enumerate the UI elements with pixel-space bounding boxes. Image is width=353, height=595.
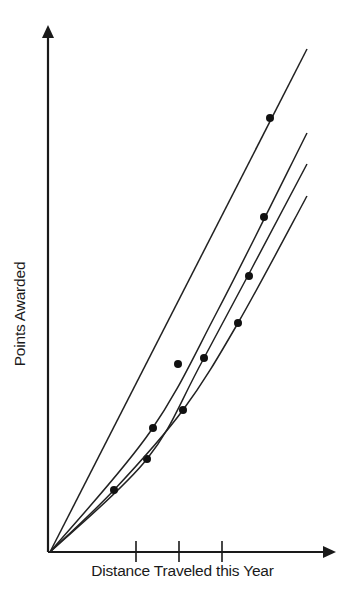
series-lines <box>50 49 307 552</box>
data-point <box>260 213 268 221</box>
y-axis-arrow-icon <box>42 25 54 38</box>
series-line <box>50 49 307 552</box>
series-line <box>50 164 307 552</box>
chart-canvas <box>0 0 353 595</box>
y-axis-label: Points Awarded <box>11 262 29 367</box>
data-point <box>200 354 208 362</box>
data-point <box>110 486 118 494</box>
data-point <box>179 406 187 414</box>
x-axis-arrow-icon <box>323 546 336 558</box>
series-line <box>50 133 307 552</box>
data-point <box>266 114 274 122</box>
x-axis-label: Distance Traveled this Year <box>0 562 353 580</box>
data-point <box>234 319 242 327</box>
data-point <box>174 360 182 368</box>
series-line <box>50 196 307 552</box>
data-point <box>149 424 157 432</box>
data-point <box>245 272 253 280</box>
